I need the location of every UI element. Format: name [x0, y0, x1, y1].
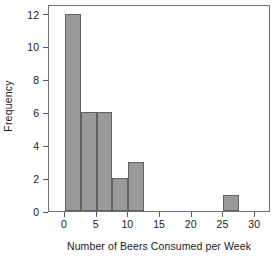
y-axis-tick-label: 4	[33, 141, 43, 152]
histogram-bar	[112, 178, 128, 211]
histogram-bar	[65, 14, 81, 211]
x-axis-tick-mark	[191, 212, 192, 217]
x-axis-tick-label: 20	[185, 219, 197, 230]
x-axis-tick-mark	[222, 212, 223, 217]
histogram-bar	[223, 195, 239, 211]
x-axis-tick-label: 0	[61, 219, 67, 230]
x-axis-tick-labels: 051015202530	[48, 219, 270, 235]
histogram-figure: Frequency 024681012 051015202530 Number …	[0, 0, 275, 264]
y-axis-ticks: 024681012	[16, 0, 48, 212]
x-axis-tick-label: 25	[217, 219, 229, 230]
plot-area	[48, 5, 270, 212]
y-axis-tick-label: 2	[33, 174, 43, 185]
y-axis-tick-label: 8	[33, 75, 43, 86]
x-axis-tick-label: 15	[153, 219, 165, 230]
x-axis-tick-mark	[159, 212, 160, 217]
x-axis-tick-mark	[127, 212, 128, 217]
y-axis-tick-label: 0	[33, 207, 43, 218]
x-axis-tick-mark	[96, 212, 97, 217]
histogram-bars	[49, 6, 269, 211]
y-axis-title: Frequency	[0, 0, 16, 212]
y-axis-tick-label: 6	[33, 108, 43, 119]
x-axis-tick-mark	[254, 212, 255, 217]
histogram-bar	[128, 162, 144, 211]
histogram-bar	[81, 112, 97, 211]
x-axis-tick-mark	[64, 212, 65, 217]
x-axis-title: Number of Beers Consumed per Week	[48, 240, 270, 252]
x-axis-tick-label: 30	[248, 219, 260, 230]
y-axis-title-text: Frequency	[2, 80, 14, 131]
y-axis-tick-label: 10	[27, 42, 43, 53]
x-axis-tick-label: 5	[93, 219, 99, 230]
x-axis-tick-label: 10	[121, 219, 133, 230]
histogram-bar	[97, 112, 113, 211]
y-axis-tick-label: 12	[27, 10, 43, 21]
